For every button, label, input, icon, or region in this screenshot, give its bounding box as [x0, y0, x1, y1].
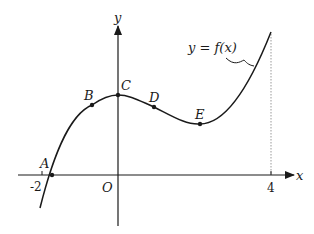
curve-f [40, 32, 271, 208]
tick-label-neg2: -2 [30, 180, 42, 194]
origin-label: O [102, 180, 113, 195]
y-axis-label: y [113, 10, 122, 25]
point-b [90, 103, 94, 107]
function-graph: A B C D E y x O -2 4 y = f(x) [0, 0, 314, 234]
point-d [152, 105, 156, 109]
tick-label-4: 4 [267, 181, 275, 195]
label-leader [226, 58, 254, 66]
curve-label: y = f(x) [187, 40, 237, 55]
point-e-label: E [194, 107, 205, 122]
x-axis-label: x [296, 168, 304, 183]
point-a-label: A [39, 156, 49, 171]
point-b-label: B [83, 88, 94, 103]
point-c [116, 93, 120, 97]
point-c-label: C [121, 78, 131, 93]
point-e [198, 122, 202, 126]
point-d-label: D [148, 90, 160, 105]
point-a [50, 173, 54, 177]
